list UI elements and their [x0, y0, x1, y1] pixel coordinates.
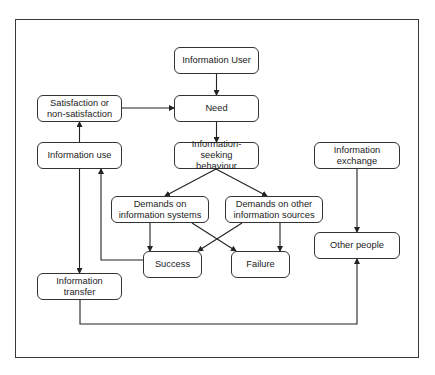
- node-label: Information exchange: [334, 145, 381, 167]
- node-demands-systems: Demands on information systems: [111, 196, 209, 223]
- node-label: Failure: [246, 259, 274, 270]
- node-information-user: Information User: [174, 47, 259, 74]
- node-label: Success: [155, 259, 190, 270]
- node-label: Need: [205, 103, 227, 114]
- node-information-exchange: Information exchange: [314, 142, 400, 169]
- edge-seeking-to-other: [216, 169, 267, 196]
- node-label: Demands on information systems: [119, 199, 202, 221]
- node-information-transfer: Information transfer: [37, 273, 122, 300]
- node-success: Success: [143, 251, 202, 278]
- edge-systems-to-failure: [192, 223, 236, 251]
- node-label: Other people: [330, 240, 384, 251]
- node-label: Demands on other information sources: [233, 199, 314, 221]
- edge-seeking-to-systems: [165, 169, 216, 196]
- node-label: Information User: [182, 55, 251, 66]
- node-need: Need: [174, 95, 259, 122]
- node-label: Information-seeking behaviour: [177, 139, 256, 172]
- node-information-seeking: Information-seeking behaviour: [174, 142, 259, 169]
- node-satisfaction: Satisfaction or non-satisfaction: [37, 95, 122, 122]
- node-information-use: Information use: [37, 142, 122, 169]
- node-other-people: Other people: [314, 232, 400, 259]
- node-label: Satisfaction or non-satisfaction: [47, 98, 112, 120]
- edge-other-to-success: [198, 223, 242, 251]
- node-label: Information use: [47, 150, 111, 161]
- node-failure: Failure: [231, 251, 290, 278]
- node-label: Information transfer: [40, 276, 119, 298]
- node-demands-other: Demands on other information sources: [225, 196, 323, 223]
